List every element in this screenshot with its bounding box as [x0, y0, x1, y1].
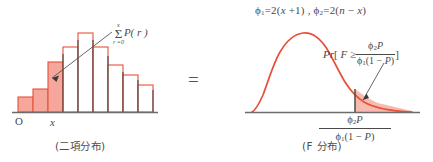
figure-binomial-f-equivalence: ϕ1=2(x +1) , ϕ2=2(n − x)	[0, 0, 433, 162]
summation-body: P( r )	[124, 26, 148, 38]
fraction-denominator: ϕ1(1 − P)	[356, 54, 395, 69]
summation-operator: x Σ r =0	[113, 22, 124, 46]
probability-expression-prefix: Pr[ F ≥	[323, 48, 356, 60]
probability-expression: Pr[ F ≥ϕ2Pϕ1(1 − P)]	[323, 41, 399, 71]
caption-f-distribution: (F 分布)	[302, 141, 342, 152]
x-axis-label: x	[50, 117, 55, 128]
probability-expression-suffix: ]	[395, 48, 399, 60]
sigma-icon: Σ	[113, 28, 124, 39]
fraction-numerator: ϕ2P	[356, 40, 395, 54]
equals-sign: =	[188, 70, 199, 89]
threshold-numerator: ϕ2P	[319, 114, 391, 128]
probability-threshold-fraction: ϕ2Pϕ1(1 − P)	[356, 40, 395, 70]
origin-label: O	[15, 116, 23, 127]
summation-annotation: x Σ r =0 P( r )	[113, 21, 148, 45]
histogram-filled-bars	[18, 62, 63, 112]
caption-binomial: (二項分布)	[55, 141, 106, 152]
summation-lower-limit: r =0	[113, 39, 124, 46]
